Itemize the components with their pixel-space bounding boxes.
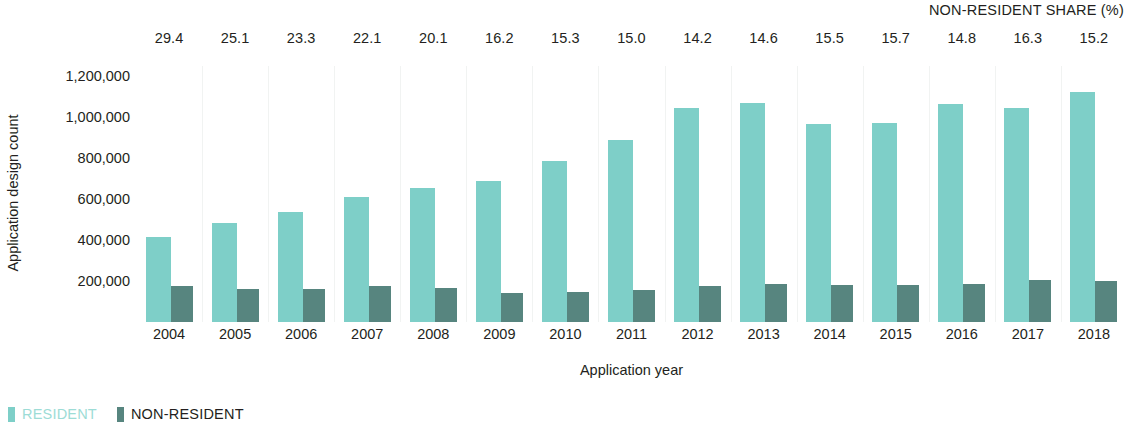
bar-resident[interactable]: [674, 108, 699, 322]
share-value: 16.2: [466, 30, 532, 50]
x-axis-tick-label: 2006: [268, 326, 334, 348]
bar-resident[interactable]: [278, 212, 303, 322]
bar-non-resident[interactable]: [501, 293, 523, 322]
bar-resident[interactable]: [410, 188, 435, 322]
bar-group: [598, 66, 664, 322]
bar-group: [400, 66, 466, 322]
y-axis-tick-label: 400,000: [24, 232, 130, 248]
bar-non-resident[interactable]: [171, 286, 193, 322]
legend-item[interactable]: RESIDENT: [8, 406, 97, 422]
legend-item[interactable]: NON-RESIDENT: [117, 406, 244, 422]
share-value: 14.8: [929, 30, 995, 50]
x-axis-tick-label: 2016: [929, 326, 995, 348]
bar-non-resident[interactable]: [237, 289, 259, 322]
bar-group: [268, 66, 334, 322]
share-value-row: 29.425.123.322.120.116.215.315.014.214.6…: [136, 30, 1127, 50]
bar-group: [532, 66, 598, 322]
bar-non-resident[interactable]: [1029, 280, 1051, 322]
y-axis-ticks: 200,000400,000600,000800,0001,000,0001,2…: [24, 66, 130, 322]
bar-non-resident[interactable]: [435, 288, 457, 322]
y-axis-tick-label: 600,000: [24, 191, 130, 207]
x-axis-tick-label: 2008: [400, 326, 466, 348]
x-axis-ticks: 2004200520062007200820092010201120122013…: [136, 326, 1127, 348]
bar-group: [334, 66, 400, 322]
x-axis-tick-label: 2009: [466, 326, 532, 348]
x-axis-tick-label: 2014: [797, 326, 863, 348]
bar-group: [136, 66, 202, 322]
share-value: 29.4: [136, 30, 202, 50]
plot-area: [136, 66, 1127, 322]
bar-resident[interactable]: [1004, 108, 1029, 322]
x-axis-title: Application year: [136, 362, 1127, 378]
bar-non-resident[interactable]: [1095, 281, 1117, 322]
share-value: 15.0: [598, 30, 664, 50]
bar-group: [1061, 66, 1127, 322]
bar-group: [929, 66, 995, 322]
bar-non-resident[interactable]: [765, 284, 787, 322]
y-axis-tick-label: 800,000: [24, 150, 130, 166]
bar-chart: NON-RESIDENT SHARE (%) 29.425.123.322.12…: [0, 0, 1136, 434]
y-axis-title: Application design count: [2, 60, 24, 325]
bar-non-resident[interactable]: [633, 290, 655, 322]
bar-resident[interactable]: [608, 140, 633, 322]
bar-group: [731, 66, 797, 322]
x-axis-tick-label: 2010: [532, 326, 598, 348]
legend-label: NON-RESIDENT: [131, 406, 244, 422]
share-value: 14.2: [665, 30, 731, 50]
share-value: 16.3: [995, 30, 1061, 50]
x-axis-tick-label: 2013: [731, 326, 797, 348]
share-value: 22.1: [334, 30, 400, 50]
bar-resident[interactable]: [542, 161, 567, 322]
y-axis-tick-label: 1,000,000: [24, 109, 130, 125]
bar-resident[interactable]: [1070, 92, 1095, 322]
bar-resident[interactable]: [344, 197, 369, 322]
x-axis-tick-label: 2012: [665, 326, 731, 348]
bar-group: [202, 66, 268, 322]
legend-swatch-icon: [117, 407, 124, 422]
x-axis-tick-label: 2007: [334, 326, 400, 348]
bar-resident[interactable]: [938, 104, 963, 322]
y-axis-tick-label: 200,000: [24, 273, 130, 289]
share-value: 25.1: [202, 30, 268, 50]
x-axis-tick-label: 2004: [136, 326, 202, 348]
y-axis-tick-label: 1,200,000: [24, 68, 130, 84]
share-value: 14.6: [731, 30, 797, 50]
bar-resident[interactable]: [146, 237, 171, 322]
bar-non-resident[interactable]: [699, 286, 721, 322]
bar-group: [995, 66, 1061, 322]
x-axis-tick-label: 2015: [863, 326, 929, 348]
bar-resident[interactable]: [212, 223, 237, 322]
bar-resident[interactable]: [872, 123, 897, 322]
bar-non-resident[interactable]: [369, 286, 391, 322]
legend-swatch-icon: [8, 407, 15, 422]
bar-resident[interactable]: [740, 103, 765, 322]
legend-label: RESIDENT: [22, 406, 97, 422]
bar-non-resident[interactable]: [303, 289, 325, 322]
non-resident-share-title: NON-RESIDENT SHARE (%): [929, 2, 1124, 18]
bar-group: [863, 66, 929, 322]
x-axis-tick-label: 2017: [995, 326, 1061, 348]
bar-resident[interactable]: [476, 181, 501, 322]
share-value: 15.5: [797, 30, 863, 50]
x-axis-tick-label: 2011: [598, 326, 664, 348]
bar-resident[interactable]: [806, 124, 831, 322]
y-axis-title-text: Application design count: [5, 114, 21, 271]
share-value: 15.3: [532, 30, 598, 50]
bar-group: [466, 66, 532, 322]
share-value: 15.7: [863, 30, 929, 50]
bar-non-resident[interactable]: [897, 285, 919, 322]
share-value: 15.2: [1061, 30, 1127, 50]
bar-non-resident[interactable]: [963, 284, 985, 322]
bar-non-resident[interactable]: [567, 292, 589, 322]
bar-non-resident[interactable]: [831, 285, 853, 322]
bar-group: [665, 66, 731, 322]
share-header: NON-RESIDENT SHARE (%): [0, 2, 1136, 22]
share-value: 20.1: [400, 30, 466, 50]
bar-group: [797, 66, 863, 322]
bar-series-container: [136, 66, 1127, 322]
chart-legend: RESIDENTNON-RESIDENT: [8, 406, 244, 422]
x-axis-tick-label: 2005: [202, 326, 268, 348]
share-value: 23.3: [268, 30, 334, 50]
x-axis-tick-label: 2018: [1061, 326, 1127, 348]
